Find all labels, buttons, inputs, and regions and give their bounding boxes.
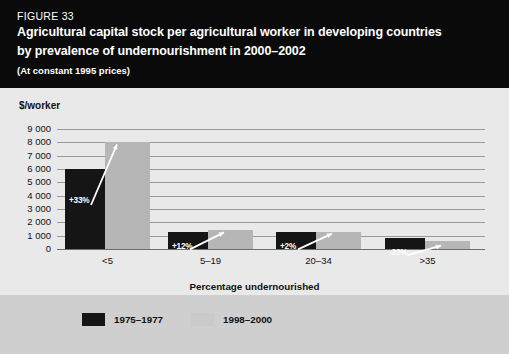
- legend-item-1998-2000: 1998–2000: [191, 313, 272, 326]
- trend-arrow->35: [0, 129, 509, 264]
- legend-item-1975-1977: 1975–1977: [82, 313, 163, 326]
- figure-subtitle: (At constant 1995 prices): [17, 64, 509, 77]
- chart-panel: $/worker 01 0002 0003 0004 0005 0006 000…: [0, 88, 509, 295]
- x-axis-tick->35: >35: [419, 255, 435, 266]
- figure-number: FIGURE 33: [17, 9, 509, 23]
- figure-title-line1: Agricultural capital stock per agricultu…: [17, 24, 509, 42]
- y-axis-unit-label: $/worker: [19, 100, 60, 111]
- chart-legend: 1975–1977 1998–2000: [0, 295, 509, 354]
- legend-label-1975-1977: 1975–1977: [114, 314, 163, 325]
- legend-swatch-dark: [82, 313, 105, 326]
- legend-swatch-light: [191, 313, 214, 326]
- x-axis-title: Percentage undernourished: [0, 281, 509, 292]
- figure-container: FIGURE 33 Agricultural capital stock per…: [0, 0, 509, 354]
- plot-area: 01 0002 0003 0004 0005 0006 0007 0008 00…: [0, 129, 509, 264]
- figure-header: FIGURE 33 Agricultural capital stock per…: [0, 0, 509, 88]
- legend-label-1998-2000: 1998–2000: [223, 314, 272, 325]
- figure-title-line2: by prevalence of undernourishment in 200…: [17, 43, 509, 61]
